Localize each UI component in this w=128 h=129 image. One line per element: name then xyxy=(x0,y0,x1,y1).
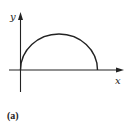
y-axis-label: y xyxy=(9,11,16,22)
semicircle-curve xyxy=(21,34,98,70)
plot-figure: y x xyxy=(0,0,128,129)
x-axis-label: x xyxy=(115,75,121,86)
y-axis-arrow-icon xyxy=(18,12,23,20)
panel-label: (a) xyxy=(7,110,19,121)
x-axis-arrow-icon xyxy=(116,68,124,73)
